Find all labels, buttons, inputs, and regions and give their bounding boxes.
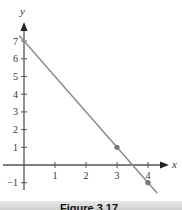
x-axis-arrow-icon (160, 162, 169, 169)
svg-text:6: 6 (13, 53, 18, 64)
x-axis-label: x (171, 158, 177, 170)
svg-text:5: 5 (13, 71, 18, 82)
svg-text:3: 3 (115, 170, 120, 181)
svg-text:−1: −1 (7, 177, 18, 188)
y-axis-label: y (19, 5, 25, 17)
svg-text:4: 4 (146, 170, 151, 181)
svg-text:3: 3 (13, 106, 18, 117)
svg-text:2: 2 (13, 124, 18, 135)
chart: 1234−11234567 x y (0, 0, 182, 210)
caption-text: Figure 3.17 (60, 202, 118, 210)
figure-caption: Figure 3.17 (0, 201, 182, 210)
svg-text:1: 1 (13, 142, 18, 153)
y-axis-arrow-icon (21, 22, 28, 31)
svg-text:1: 1 (53, 170, 58, 181)
data-point (145, 180, 150, 185)
data-point (114, 145, 119, 150)
svg-text:2: 2 (84, 170, 89, 181)
svg-text:4: 4 (13, 89, 18, 100)
svg-text:7: 7 (13, 36, 18, 47)
